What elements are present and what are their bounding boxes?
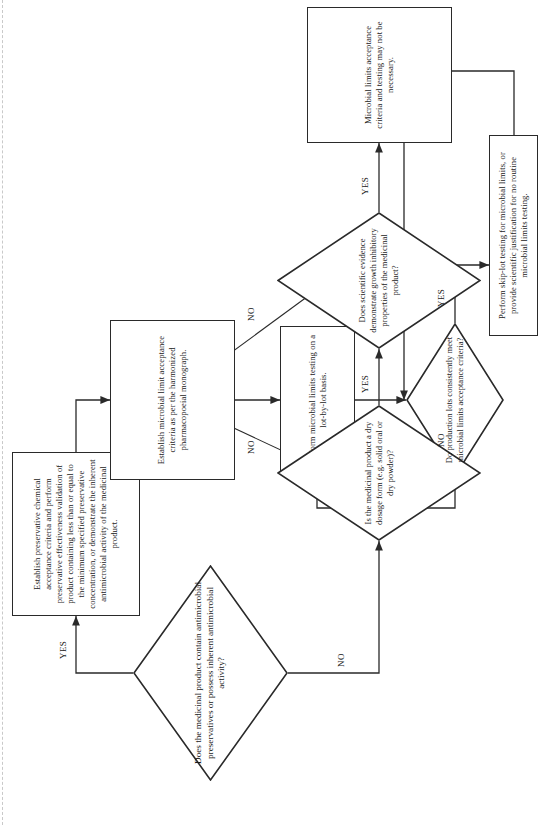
decision-growth-inhibitory-label: Does scientific evidence demonstrate gro… (357, 222, 401, 340)
edge-label-preservatives-no: NO (336, 653, 346, 667)
edge-label-dry-dosage-no: NO (246, 440, 256, 454)
edge-label-growth-yes: YES (360, 177, 370, 195)
process-skip-lot-testing[interactable]: Perform skip-lot testing for microbial l… (489, 135, 538, 336)
edge-label-growth-no: NO (246, 307, 256, 321)
flowchart-canvas: Does the medicinal product contain antim… (0, 0, 542, 825)
process-testing-not-necessary[interactable]: Microbial limits acceptance criteria and… (307, 7, 452, 143)
decision-growth-inhibitory[interactable]: Does scientific evidence demonstrate gro… (277, 212, 481, 349)
edge-label-dry-dosage-yes: YES (360, 375, 370, 393)
process-microbial-limit-criteria-label: Establish microbial limit acceptance cri… (156, 326, 189, 474)
decision-preservatives-label: Does the medicinal product contain antim… (193, 580, 228, 766)
rotated-diagram-wrapper: Does the medicinal product contain antim… (0, 0, 542, 825)
process-microbial-limit-criteria[interactable]: Establish microbial limit acceptance cri… (110, 320, 235, 480)
process-skip-lot-testing-label: Perform skip-lot testing for microbial l… (497, 141, 530, 330)
process-testing-not-necessary-label: Microbial limits acceptance criteria and… (363, 13, 396, 137)
decision-preservatives[interactable]: Does the medicinal product contain antim… (133, 565, 288, 781)
decision-dry-dosage-form-label: Is the medicinal product a dry dosage fo… (363, 415, 396, 532)
process-preservative-criteria-label: Establish preservative chemical acceptan… (32, 458, 120, 610)
flowchart-page: Does the medicinal product contain antim… (0, 0, 542, 825)
edge-label-preservatives-yes: YES (58, 641, 68, 659)
decision-production-lots-label: Do production lots consistently meet mic… (444, 334, 466, 466)
edge-label-production-lots-yes: YES (436, 289, 446, 307)
